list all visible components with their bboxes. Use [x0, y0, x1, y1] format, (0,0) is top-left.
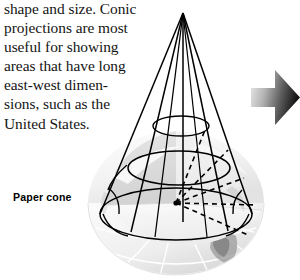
figure-caption: shape and size. Conic projections are mo…	[4, 0, 142, 133]
globe-center-point	[173, 200, 178, 205]
paper-cone-label: Paper cone	[13, 191, 72, 203]
right-arrow-icon	[251, 70, 300, 125]
conic-projection-figure: shape and size. Conic projections are mo…	[0, 0, 300, 280]
